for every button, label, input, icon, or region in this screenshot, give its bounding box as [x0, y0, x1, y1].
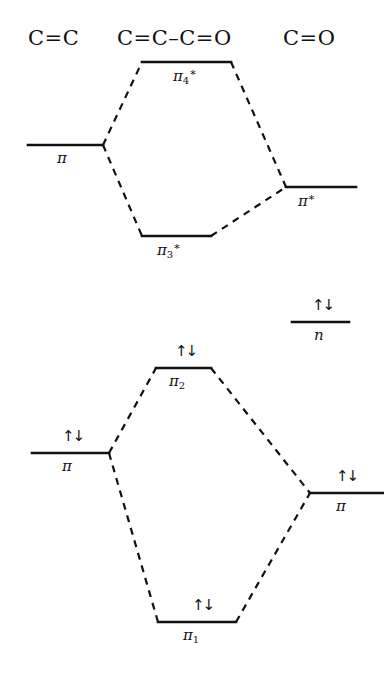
connector-pi2-to-cob — [211, 368, 310, 493]
level-label-pi2-bonding: π2 — [169, 372, 185, 391]
level-label-pi-co-bonding: π — [336, 497, 346, 515]
level-label-pi-star-co: π∗ — [298, 191, 315, 210]
level-subscript: 1 — [193, 634, 199, 645]
antibonding-star: ∗ — [173, 240, 180, 253]
header-left: C=C — [28, 26, 79, 50]
connector-ccb-to-pi1 — [109, 453, 158, 622]
level-label-n-nonbonding: n — [314, 326, 324, 344]
level-label-pi-ec-antibond-left: π — [57, 149, 67, 167]
mo-diagram: ππ4∗π3∗π∗n↑↓π2↑↓π↑↓π↑↓π1↑↓C=CC=C–C=OC=O — [0, 0, 384, 679]
electron-pair-n-nonbonding: ↑↓ — [312, 296, 333, 314]
electron-pair-pi2-bonding: ↑↓ — [175, 342, 196, 360]
connector-pi4-to-costar — [231, 62, 286, 187]
connector-cc-to-pi3 — [103, 145, 142, 236]
diagram-lines — [0, 0, 384, 679]
level-subscript: 2 — [179, 380, 185, 391]
header-right: C=O — [283, 26, 335, 50]
electron-pair-pi-co-bonding: ↑↓ — [336, 467, 357, 485]
connector-ccb-to-pi2 — [109, 368, 156, 453]
level-label-pi1-bonding: π1 — [183, 626, 199, 645]
antibonding-star: ∗ — [189, 66, 196, 79]
electron-pair-pi1-bonding: ↑↓ — [192, 596, 213, 614]
level-label-pi3-star: π3∗ — [157, 240, 181, 260]
connector-cc-to-pi4 — [103, 62, 142, 145]
connector-pi1-to-cob — [236, 493, 310, 622]
connector-pi3-to-costar — [211, 187, 286, 236]
level-label-pi-cc-bonding: π — [62, 457, 72, 475]
header-center: C=C–C=O — [117, 26, 232, 50]
antibonding-star: ∗ — [308, 191, 315, 204]
level-label-pi4-star: π4∗ — [173, 66, 197, 86]
electron-pair-pi-cc-bonding: ↑↓ — [62, 427, 83, 445]
